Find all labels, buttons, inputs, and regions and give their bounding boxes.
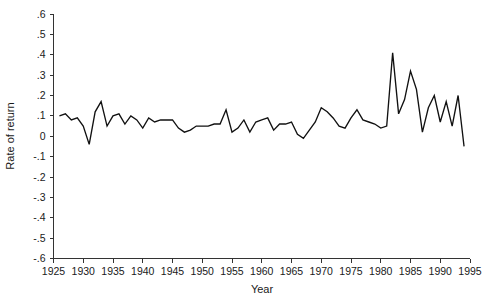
y-tick-label: -.3 bbox=[33, 191, 45, 203]
y-tick-label: .2 bbox=[37, 89, 46, 101]
x-tick-label: 1930 bbox=[72, 265, 96, 277]
x-tick-label: 1980 bbox=[369, 265, 393, 277]
x-tick-label: 1935 bbox=[101, 265, 125, 277]
y-tick-label: .6 bbox=[37, 8, 46, 20]
x-tick-label: 1990 bbox=[429, 265, 453, 277]
x-tick-label: 1960 bbox=[250, 265, 274, 277]
x-axis: 1925193019351940194519501955196019651970… bbox=[42, 259, 482, 277]
x-tick-label: 1975 bbox=[339, 265, 363, 277]
x-axis-title: Year bbox=[251, 283, 274, 295]
y-axis: .6.5.4.3.2.10-.1-.2-.3-.4-.5-.6 bbox=[33, 8, 53, 265]
x-tick-label: 1985 bbox=[399, 265, 423, 277]
x-tick-label: 1925 bbox=[42, 265, 66, 277]
y-tick-label: -.4 bbox=[33, 211, 45, 223]
y-tick-label: -.1 bbox=[33, 150, 45, 162]
y-tick-label: .4 bbox=[37, 48, 46, 60]
y-tick-label: .3 bbox=[37, 69, 46, 81]
y-tick-label: .1 bbox=[37, 109, 46, 121]
chart-container: .6.5.4.3.2.10-.1-.2-.3-.4-.5-.6 19251930… bbox=[0, 0, 497, 299]
x-tick-label: 1970 bbox=[310, 265, 334, 277]
y-axis-title: Rate of return bbox=[4, 102, 16, 169]
line-chart-plot: .6.5.4.3.2.10-.1-.2-.3-.4-.5-.6 19251930… bbox=[0, 0, 497, 299]
data-series-line bbox=[59, 53, 464, 147]
x-tick-label: 1995 bbox=[458, 265, 482, 277]
x-tick-label: 1965 bbox=[280, 265, 304, 277]
y-tick-label: .5 bbox=[37, 28, 46, 40]
y-tick-label: -.2 bbox=[33, 171, 45, 183]
y-tick-label: 0 bbox=[40, 130, 46, 142]
x-tick-label: 1945 bbox=[161, 265, 185, 277]
x-tick-label: 1955 bbox=[220, 265, 244, 277]
x-tick-label: 1950 bbox=[191, 265, 215, 277]
y-tick-label: -.5 bbox=[33, 232, 45, 244]
x-tick-label: 1940 bbox=[131, 265, 155, 277]
y-tick-label: -.6 bbox=[33, 252, 45, 264]
